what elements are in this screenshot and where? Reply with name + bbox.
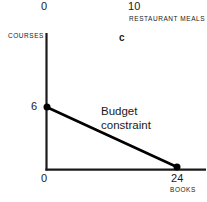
y-axis-name-label: COURSES [8, 33, 44, 40]
budget-constraint-annotation: Budget constraint [101, 105, 151, 132]
x-axis-name-label: BOOKS [170, 187, 196, 194]
origin-tick-label: 0 [41, 173, 47, 184]
annotation-line-2: constraint [101, 119, 151, 133]
x-intercept-tick-label: 24 [171, 173, 184, 184]
y-intercept-tick-label: 6 [31, 101, 37, 112]
annotation-line-1: Budget [101, 105, 151, 119]
x-intercept-point [174, 164, 181, 171]
panel-identifier-label: c [119, 33, 125, 43]
budget-constraint-figure: 0 10 RESTAURANT MEALS COURSES c 6 0 24 B… [0, 0, 207, 202]
y-intercept-point [44, 104, 51, 111]
